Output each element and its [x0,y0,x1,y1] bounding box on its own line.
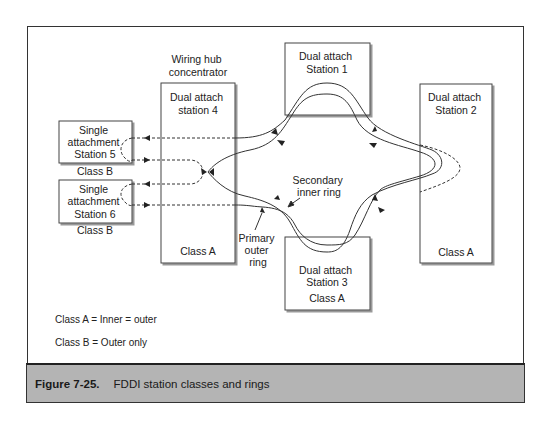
primary-ring-label: Primary outer ring [238,232,277,268]
arrow-icon [144,181,150,187]
station3-class: Class A [309,292,345,304]
station1-label: Dual attach Station 1 [299,50,355,75]
arrow-icon [144,135,150,141]
hub-label: Wiring hub concentrator [169,53,228,78]
arrow-icon [288,201,294,207]
station6-class: Class B [77,224,113,236]
primary-pointer [255,213,262,230]
legend-class-a: Class A = Inner = outer [55,314,157,325]
arrow-icon [372,126,377,132]
ring-path-inner [208,94,435,245]
arrow-icon [274,195,280,200]
arrow-icon [369,143,377,148]
figure-caption: Figure 7-25. FDDI station classes and ri… [26,363,525,403]
arrow-icon [144,157,150,163]
fddi-diagram: Wiring hub concentrator Dual attach stat… [0,0,552,421]
figure-title: FDDI station classes and rings [114,378,270,390]
legend-class-b: Class B = Outer only [55,337,147,348]
arrow-icon [260,207,265,213]
arrow-icon [144,202,150,208]
station4-label: Dual attach station 4 [170,91,226,116]
secondary-ring-label: Secondary inner ring [292,174,345,198]
station2-label: Dual attach Station 2 [428,91,484,116]
station3-label: Dual attach Station 3 [299,264,355,288]
station2-class: Class A [438,246,474,258]
arrow-icon [378,207,385,213]
arrow-icon [277,140,285,146]
station4-class: Class A [180,245,216,257]
figure-number: Figure 7-25. [35,378,100,390]
station5-class: Class B [77,165,113,177]
